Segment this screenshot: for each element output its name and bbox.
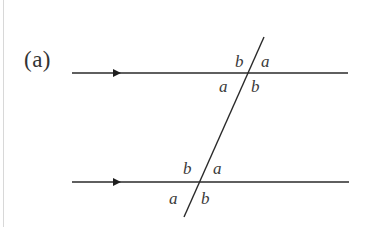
- top-arrow-icon: [113, 69, 121, 77]
- bottom-angle-upper-left: b: [183, 159, 192, 178]
- top-angle-lower-right: b: [251, 77, 260, 96]
- bottom-angle-upper-right: a: [213, 159, 222, 178]
- top-angle-upper-right: a: [261, 52, 270, 71]
- bottom-arrow-icon: [113, 178, 121, 186]
- bottom-angle-lower-left: a: [169, 189, 178, 208]
- top-angle-lower-left: a: [219, 77, 228, 96]
- diagram-frame: (a) b a a b b a a b: [0, 0, 368, 227]
- transversal-line: [184, 37, 264, 217]
- parallel-lines-diagram: b a a b b a a b: [0, 0, 368, 227]
- top-angle-upper-left: b: [235, 52, 244, 71]
- bottom-angle-lower-right: b: [201, 189, 210, 208]
